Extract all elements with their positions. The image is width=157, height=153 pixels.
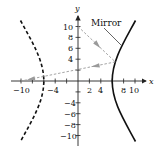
x-tick-label: 10 (129, 86, 139, 95)
mirror-leader-line (104, 28, 121, 45)
y-tick-label: 6 (68, 44, 73, 53)
x-tick-label: −10 (13, 86, 30, 95)
hyperbola-mirror-diagram: x y −10 −4 2 4 8 10 10 8 6 4 −4 −6 −8 (0, 0, 157, 153)
y-tick-label: 8 (68, 33, 73, 42)
y-tick-label: −4 (64, 99, 76, 108)
y-tick-label: −6 (64, 110, 76, 119)
y-tick-label: 10 (63, 23, 73, 32)
x-tick-label: 8 (121, 86, 126, 95)
y-tick-label: −10 (60, 132, 77, 141)
y-tick-label: 4 (68, 55, 73, 64)
x-axis-label: x (149, 77, 154, 86)
reflected-ray-arrowhead (91, 63, 100, 67)
x-tick-label: 4 (98, 86, 103, 95)
reflected-ray (21, 62, 115, 81)
y-axis-label: y (74, 4, 80, 13)
y-tick-label: −8 (64, 121, 76, 130)
reflected-ray-arrowhead-left (27, 76, 35, 80)
x-tick-label: 2 (87, 86, 92, 95)
mirror-label: Mirror (91, 18, 122, 28)
x-tick-label: −4 (47, 86, 59, 95)
